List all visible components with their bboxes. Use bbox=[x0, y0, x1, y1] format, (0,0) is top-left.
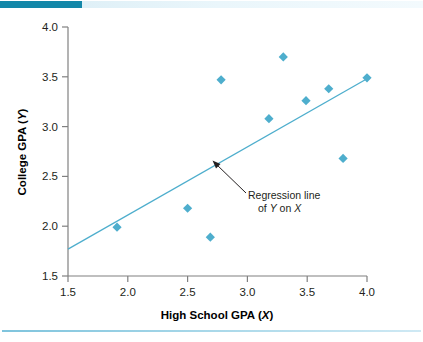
x-axis-title-close: ) bbox=[269, 309, 273, 321]
regression-annotation-arrow bbox=[213, 161, 247, 194]
y-axis-title: College GPA (Y) bbox=[16, 108, 28, 195]
x-tick-label: 2.0 bbox=[120, 286, 136, 298]
y-tick-label: 2.5 bbox=[42, 170, 58, 182]
x-tick-label: 2.5 bbox=[180, 286, 196, 298]
y-tick-labels: 4.0 3.5 3.0 2.5 2.0 1.5 bbox=[42, 21, 58, 282]
annotation-on: on bbox=[277, 202, 295, 214]
x-tick-label: 4.0 bbox=[359, 286, 375, 298]
data-point bbox=[216, 75, 225, 84]
y-tick-label: 3.5 bbox=[42, 71, 58, 83]
data-point bbox=[324, 84, 333, 93]
regression-annotation-line1: Regression line bbox=[248, 189, 321, 201]
x-axis-title: High School GPA (X) bbox=[161, 309, 274, 321]
data-point bbox=[206, 233, 215, 242]
data-point bbox=[183, 204, 192, 213]
data-point bbox=[301, 96, 310, 105]
data-point-markers bbox=[112, 52, 371, 241]
scatter-plot: 4.0 3.5 3.0 2.5 2.0 1.5 1.5 2.0 2.5 3.0 … bbox=[0, 0, 423, 342]
figure-container: 4.0 3.5 3.0 2.5 2.0 1.5 1.5 2.0 2.5 3.0 … bbox=[0, 0, 423, 342]
y-axis-title-close: ) bbox=[16, 108, 28, 112]
y-axis-ticks bbox=[62, 27, 68, 276]
x-tick-label: 1.5 bbox=[60, 286, 76, 298]
data-point bbox=[338, 154, 347, 163]
data-point bbox=[264, 114, 273, 123]
y-tick-label: 2.0 bbox=[42, 220, 58, 232]
x-tick-label: 3.5 bbox=[299, 286, 315, 298]
x-axis-ticks bbox=[68, 276, 367, 282]
data-point bbox=[279, 52, 288, 61]
x-axis-title-text: High School GPA ( bbox=[161, 309, 262, 321]
y-tick-label: 1.5 bbox=[42, 270, 58, 282]
y-tick-label: 3.0 bbox=[42, 121, 58, 133]
annotation-var-x: X bbox=[293, 202, 302, 214]
x-tick-labels: 1.5 2.0 2.5 3.0 3.5 4.0 bbox=[60, 286, 375, 298]
data-point bbox=[112, 223, 121, 232]
x-tick-label: 3.0 bbox=[239, 286, 255, 298]
regression-annotation-line2: of Y on X bbox=[258, 202, 302, 214]
y-tick-label: 4.0 bbox=[42, 21, 58, 33]
y-axis-title-text: College GPA ( bbox=[16, 120, 28, 196]
annotation-of: of bbox=[258, 202, 270, 214]
